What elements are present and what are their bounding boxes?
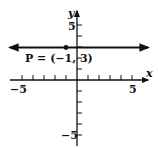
y-tick-label-5: 5 xyxy=(68,20,76,33)
coordinate-plane: y x 5 −5 −5 5 P = (−1, 3) xyxy=(0,0,158,148)
point-label: P = (−1, 3) xyxy=(25,52,93,65)
point-p xyxy=(64,45,69,50)
x-axis-label: x xyxy=(145,67,153,80)
y-tick-label-neg5: −5 xyxy=(61,129,78,142)
x-tick-label-neg5: −5 xyxy=(10,83,27,96)
y-axis-label: y xyxy=(67,7,76,20)
x-tick-label-5: 5 xyxy=(129,83,137,96)
